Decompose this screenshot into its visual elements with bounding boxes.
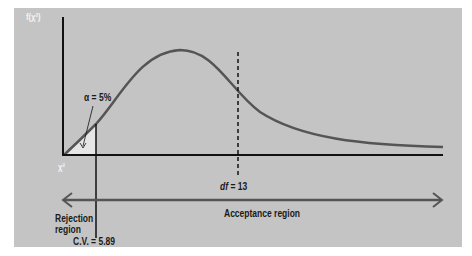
y-axis-label: f(χ²) [26,12,41,22]
df-label: df = 13 [220,181,247,192]
critical-value-label: C.V. = 5.89 [73,236,115,247]
rejection-line-1: Rejection [55,213,93,224]
df-value: = 13 [228,181,247,192]
rejection-region-label: Rejection region [55,213,93,235]
x-axis-label: χ² [58,162,65,172]
rejection-line-2: region [55,224,93,235]
distribution-curve [64,50,443,155]
alpha-label: α = 5% [84,92,111,103]
acceptance-region-label: Acceptance region [224,208,300,219]
